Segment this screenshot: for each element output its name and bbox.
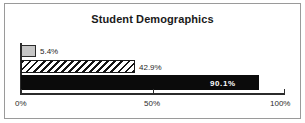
x-tick-50 — [153, 89, 154, 94]
x-tick-0 — [21, 89, 22, 94]
x-tick-label-100: 100% — [270, 99, 290, 108]
bar-series-2[interactable] — [21, 60, 135, 73]
bar-label-2: 42.9% — [139, 63, 162, 72]
bar-label-1: 5.4% — [40, 47, 58, 56]
chart-container: Student Demographics 5.4% 42.9% 90.1% 0%… — [0, 0, 305, 123]
x-tick-label-50: 50% — [144, 99, 160, 108]
bar-series-1[interactable] — [21, 45, 36, 57]
x-tick-label-0: 0% — [15, 99, 27, 108]
bar-row-1: 5.4% — [21, 45, 285, 57]
bar-row-3: 90.1% — [21, 75, 285, 90]
bar-label-3: 90.1% — [210, 79, 236, 88]
plot-area: 5.4% 42.9% 90.1% 0% 50% 100% — [0, 0, 305, 123]
x-tick-100 — [284, 89, 285, 94]
bar-row-2: 42.9% — [21, 60, 285, 73]
